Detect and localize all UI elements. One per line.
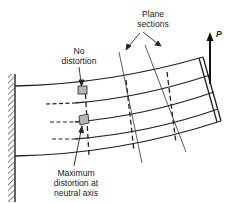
plane-sections-label-line1: Plane (142, 9, 164, 19)
cantilever-beam-diagram: Plane sections No distortion Maximum dis… (0, 0, 234, 203)
plane-sections-arrows (126, 32, 161, 50)
fixed-wall-support (8, 74, 15, 202)
no-distortion-label-line2: distortion (62, 56, 97, 66)
beam-bottom-edge (15, 121, 221, 156)
no-distortion-label-line1: No (74, 46, 85, 56)
max-distortion-label-line1: Maximum (57, 168, 94, 178)
beam-top-edge (15, 57, 203, 86)
plane-sections-label-line2: sections (137, 19, 169, 29)
max-distortion-label-line2: distortion at (54, 178, 99, 188)
element-no-distortion (78, 86, 87, 94)
max-distortion-arrow (74, 126, 84, 166)
element-max-distortion (79, 114, 89, 125)
max-distortion-label-line3: neutral axis (54, 188, 98, 198)
beam-fiber-4 (75, 109, 218, 139)
undeformed-fiber-dashes (46, 103, 75, 139)
no-distortion-arrow (79, 67, 84, 86)
beam-fibers (15, 57, 221, 156)
load-label: P (216, 29, 222, 39)
